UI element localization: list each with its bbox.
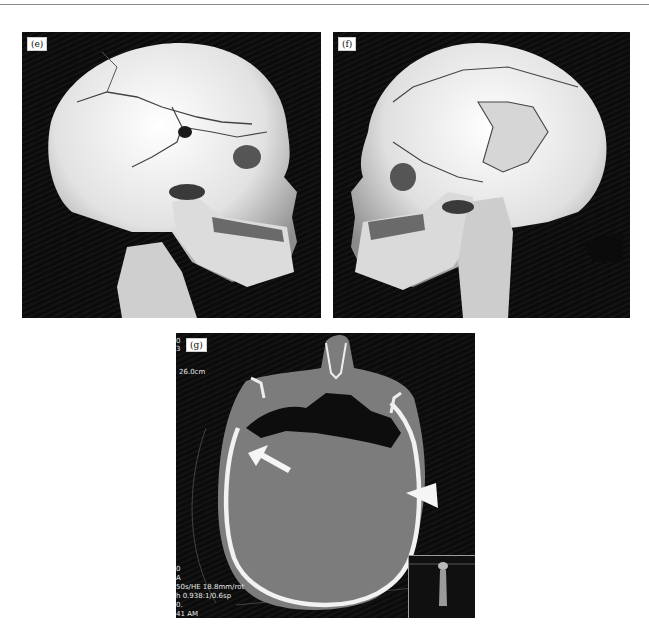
ct-overlay-top-0: 0 <box>176 337 180 345</box>
ct-overlay-fov: 26.0cm <box>179 368 205 376</box>
ct-overlay-bottom-0: 0 <box>176 565 180 573</box>
ct-overlay-top-1: 3 <box>176 345 180 353</box>
ct-overlay-bottom-2: 50s/HE 18.8mm/rot <box>176 583 244 591</box>
panel-label-g: (g) <box>186 338 207 352</box>
panel-e: (e) <box>22 32 321 318</box>
panel-label-f: (f) <box>338 37 356 51</box>
ct-overlay-bottom-1: A <box>176 574 181 582</box>
ct-overlay-bottom-4: 0. <box>176 601 183 609</box>
scout-localizer-inset <box>408 555 475 618</box>
panel-g: (g) 0 3 26.0cm 0 A 50s/HE 18.8mm/rot h 0… <box>176 333 475 618</box>
skull-left-lateral-render <box>333 32 630 318</box>
panel-f: (f) <box>333 32 630 318</box>
top-rule <box>0 4 649 5</box>
ct-overlay-bottom-5: 41 AM <box>176 610 198 618</box>
panel-label-e: (e) <box>27 37 47 51</box>
skull-right-lateral-render <box>22 32 321 318</box>
scout-spine-thumbnail <box>409 556 475 618</box>
ct-overlay-bottom-3: h 0.938:1/0.6sp <box>176 592 231 600</box>
